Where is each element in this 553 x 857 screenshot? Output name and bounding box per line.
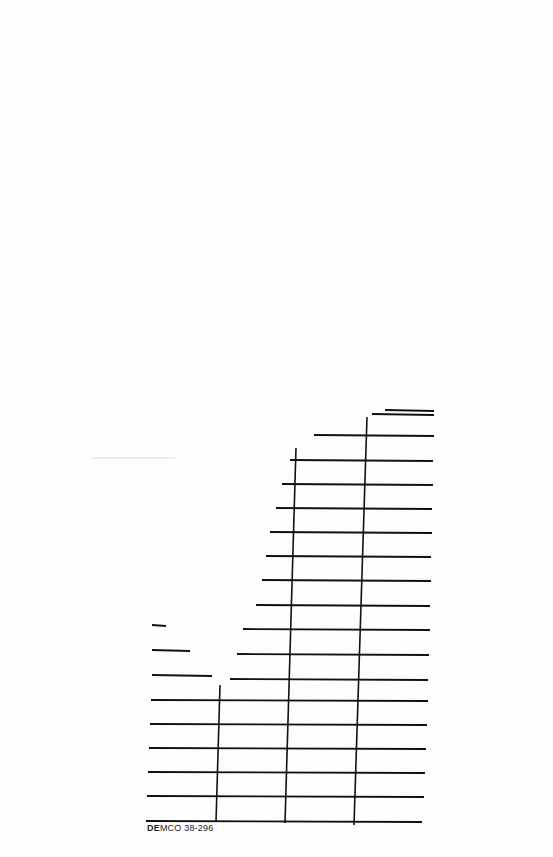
row-rule (290, 460, 433, 461)
row-rule (152, 625, 166, 626)
row-rule (276, 508, 432, 509)
row-rule (314, 435, 434, 436)
label-rest: MCO 38-296 (160, 823, 214, 833)
row-rule (266, 556, 431, 557)
column-rule (285, 448, 296, 823)
row-rule (152, 675, 212, 676)
row-rule (256, 605, 430, 606)
demco-label: DEMCO 38-296 (147, 823, 213, 833)
row-rule (282, 484, 433, 485)
row-rule (262, 580, 431, 581)
row-rule (230, 679, 428, 680)
document-page: DEMCO 38-296 (0, 0, 553, 857)
row-rule (243, 629, 430, 630)
row-rule (385, 410, 434, 411)
row-rule (151, 700, 428, 701)
label-prefix: DE (147, 823, 160, 833)
row-rule (372, 414, 434, 415)
row-rule (146, 821, 422, 822)
row-rule (152, 650, 190, 651)
column-rule (354, 417, 367, 825)
due-date-grid (0, 0, 553, 857)
row-rule (237, 654, 429, 655)
column-rule (216, 685, 220, 822)
